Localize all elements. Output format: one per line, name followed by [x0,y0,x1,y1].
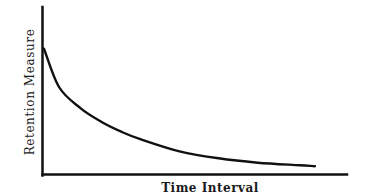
chart-plot-area [0,0,377,196]
chart: Retention Measure Time Interval [0,0,377,196]
retention-curve [44,49,315,167]
x-axis-label: Time Interval [161,181,259,195]
y-axis-label: Retention Measure [23,29,37,156]
